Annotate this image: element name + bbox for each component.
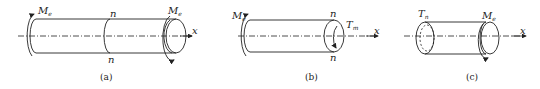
label-moment-left: Me xyxy=(37,5,52,17)
label-axis: x xyxy=(374,25,380,36)
caption-a: (a) xyxy=(100,72,112,82)
label-section-top: n xyxy=(330,8,336,19)
label-section-top: n xyxy=(110,8,116,19)
label-section-bottom: n xyxy=(330,52,336,63)
caption-c: (c) xyxy=(466,72,478,82)
label-section-bottom: n xyxy=(108,54,114,65)
label-axis: x xyxy=(520,25,526,36)
moment-arrow-icon xyxy=(163,16,174,61)
caption-b: (b) xyxy=(305,72,318,82)
torque-arrow-icon xyxy=(333,26,337,48)
label-internal-torque: Tm xyxy=(346,19,359,31)
label-moment-right: Me xyxy=(167,5,182,17)
figure-a: Me Me n n x (a) xyxy=(18,5,198,82)
moment-arrow-icon xyxy=(27,14,34,56)
label-moment-right: Me xyxy=(481,10,496,22)
label-axis: x xyxy=(192,25,198,36)
figure-b: Me n n Tm x (b) xyxy=(231,8,380,82)
label-internal-torque: Tn xyxy=(418,8,429,20)
torque-arrow-icon xyxy=(420,25,434,51)
figure-c: Tn Me x (c) xyxy=(404,8,526,82)
torsion-diagram: Me Me n n x (a) Me n n Tm x (b) Tn Me xyxy=(0,0,540,89)
label-moment-left: Me xyxy=(231,10,246,22)
